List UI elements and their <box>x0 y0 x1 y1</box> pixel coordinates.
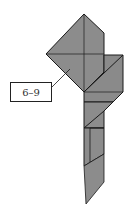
middle-column <box>84 102 113 166</box>
step-label: 6–9 <box>10 82 52 102</box>
origami-figure <box>0 0 129 212</box>
leader-line <box>52 69 70 87</box>
